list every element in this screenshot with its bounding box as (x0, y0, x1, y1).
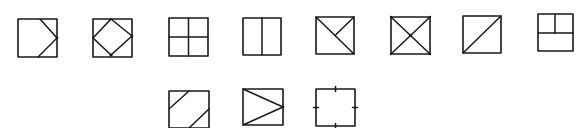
figure-chevron-square (18, 19, 58, 57)
figure-vertical-halves-square (243, 18, 281, 55)
figure-diagonal-halfdiagonal-square (316, 17, 354, 54)
figure-x-square (390, 16, 431, 55)
figure-triangle-square (243, 89, 284, 125)
figure-parallel-cuts-square (169, 91, 209, 128)
shape-figure-canvas (0, 0, 581, 128)
figure-t-division-square (538, 14, 573, 51)
figure-single-diagonal-square (463, 16, 501, 53)
figure-midpoint-ticks-square (314, 87, 358, 129)
figure-diamond-square (93, 19, 133, 57)
figure-quartered-square (169, 18, 208, 56)
